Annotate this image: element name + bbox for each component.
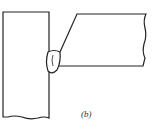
beveled-horizontal-plate	[58, 14, 146, 66]
weld-joint-diagram	[0, 0, 154, 132]
weld-bead	[47, 51, 61, 73]
diagram-canvas: (b)	[0, 0, 154, 132]
vertical-plate	[3, 12, 49, 119]
figure-caption: (b)	[81, 109, 92, 119]
